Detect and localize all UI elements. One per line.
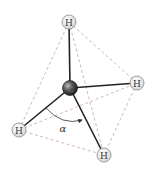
bond-c-h-top [69, 22, 70, 88]
hydrogen-atom-top: H [62, 15, 76, 29]
tetrahedron-edges [19, 22, 137, 155]
carbon-label: C [68, 85, 74, 94]
hydrogen-atom-right: H [130, 76, 144, 90]
hydrogen-top-label: H [65, 18, 73, 28]
hydrogen-right-label: H [133, 79, 141, 89]
methane-diagram: α C H H H H [0, 0, 155, 175]
tetrahedron-svg: α C H H H H [0, 0, 155, 175]
hydrogen-atom-left: H [12, 123, 26, 137]
hydrogen-bottom-label: H [100, 151, 108, 161]
angle-arc [46, 108, 82, 122]
edge-right-bottom [104, 83, 137, 155]
hydrogen-left-label: H [15, 126, 23, 136]
edge-left-bottom [19, 130, 104, 155]
carbon-atom: C [63, 81, 78, 96]
edge-top-left [19, 22, 69, 130]
angle-alpha-label: α [60, 123, 67, 134]
edge-top-right [69, 22, 137, 83]
hydrogen-atom-bottom: H [97, 148, 111, 162]
edge-left-right [19, 83, 137, 130]
